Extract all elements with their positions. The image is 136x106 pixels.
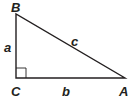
vertex-label-c: C — [11, 84, 21, 99]
side-label-c: c — [71, 34, 79, 49]
right-triangle-diagram: B a c C b A — [0, 0, 136, 106]
side-label-b: b — [62, 84, 70, 99]
vertex-label-a: A — [118, 84, 128, 99]
right-angle-marker — [16, 68, 26, 78]
side-label-a: a — [4, 40, 11, 55]
vertex-label-b: B — [11, 0, 20, 15]
